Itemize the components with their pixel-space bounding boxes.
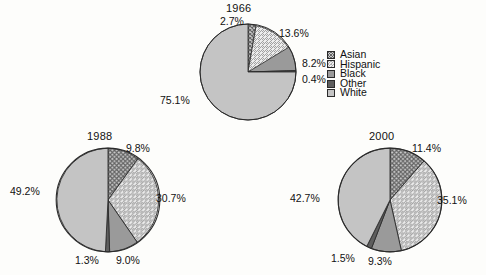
slice-label-black-2000: 9.3% — [368, 255, 392, 267]
slice-label-white-1988: 49.2% — [10, 185, 40, 197]
slice-label-other-1966: 0.4% — [302, 73, 326, 85]
pie-chart-1966: 1966 2.7% 13.6% 8.2% 0.4% 75.1% — [198, 2, 318, 124]
slice-label-other-1988: 1.3% — [75, 254, 99, 266]
legend-swatch-white — [327, 89, 335, 97]
pie-slice-white — [57, 148, 108, 252]
slice-label-black-1988: 9.0% — [116, 254, 140, 266]
pie-chart-2000: 2000 11.4% 35.1% 9.3% 1.5% 42.7% — [318, 130, 453, 270]
legend-item-white[interactable]: White — [327, 88, 380, 98]
legend-swatch-asian — [327, 51, 335, 59]
pie-chart-1988: 1988 9.8% 30.7% 9.0% 1.3% 49.2% — [42, 130, 172, 270]
slice-label-asian-1988: 9.8% — [126, 142, 150, 154]
chart-legend: Asian Hispanic Black Other White — [327, 50, 380, 98]
slice-label-asian-1966: 2.7% — [220, 15, 244, 27]
slice-label-hispanic-2000: 35.1% — [437, 194, 467, 206]
pie-svg-1988 — [54, 146, 162, 254]
slice-label-other-2000: 1.5% — [331, 252, 355, 264]
slice-label-asian-2000: 11.4% — [412, 142, 441, 154]
pie-svg-2000 — [336, 146, 444, 254]
legend-swatch-other — [327, 80, 335, 88]
legend-label-white: White — [340, 88, 367, 98]
chart-title-1988: 1988 — [87, 130, 112, 142]
slice-label-black-1966: 8.2% — [302, 57, 326, 69]
slice-label-white-2000: 42.7% — [290, 192, 320, 204]
legend-swatch-hispanic — [327, 60, 335, 68]
slice-label-hispanic-1988: 30.7% — [156, 192, 186, 204]
legend-swatch-black — [327, 70, 335, 78]
slice-label-hispanic-1966: 13.6% — [279, 27, 309, 39]
chart-title-1966: 1966 — [226, 2, 251, 14]
slice-label-white-1966: 75.1% — [160, 94, 190, 106]
chart-title-2000: 2000 — [369, 130, 394, 142]
